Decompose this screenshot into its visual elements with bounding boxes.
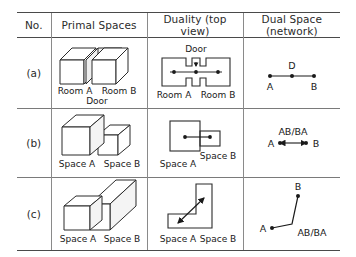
network-a-label-a: A: [266, 81, 273, 92]
duality-diagram-b: Space A Space B: [148, 109, 244, 177]
network-diagram-c: B A AB/BA: [244, 178, 341, 251]
table-row: (c) Space A Space B: [17, 178, 340, 251]
primal-diagram-c: Space A Space B: [52, 178, 148, 251]
duality-a-label-room-a: Room A: [156, 90, 191, 100]
door-arrow-icon: [193, 63, 198, 68]
network-a-node-d: [290, 74, 294, 78]
duality-c-label-space-b: Space B: [199, 234, 235, 244]
row-label-b: (b): [17, 109, 51, 178]
cell-primal-a: Room A Room B Door: [51, 38, 147, 109]
duality-b-label-space-b: Space B: [199, 151, 235, 161]
cell-network-c: B A AB/BA: [243, 178, 340, 251]
duality-a-label-room-b: Room B: [200, 90, 235, 100]
cell-duality-a: Door Room A Room B: [147, 38, 243, 109]
duality-a-node-room-b: [216, 70, 220, 74]
network-a-label-d: D: [288, 60, 295, 71]
table-row: (b) Space A Space B: [17, 109, 340, 178]
table-row: (a) Room A Room B Door: [17, 38, 340, 109]
primal-b-label-space-b: Space B: [103, 159, 139, 169]
duality-diagram-c: Space A Space B: [148, 178, 244, 251]
duality-c-label-space-a: Space A: [159, 234, 196, 244]
duality-b-node-space-b: [208, 135, 212, 139]
network-a-label-b: B: [310, 81, 317, 92]
row-label-a: (a): [17, 38, 51, 109]
network-c-node-b: [296, 194, 300, 198]
network-c-label-edge: AB/BA: [297, 227, 327, 238]
network-c-label-b: B: [294, 181, 301, 192]
network-a-node-b: [312, 74, 316, 78]
cell-primal-b: Space A Space B: [51, 109, 147, 178]
network-diagram-a: D A B: [244, 38, 341, 109]
network-c-node-a: [270, 226, 274, 230]
table-header-row: No. Primal Spaces Duality (top view) Dua…: [17, 13, 340, 38]
network-b-node-a: [278, 141, 282, 145]
network-a-node-a: [268, 74, 272, 78]
network-b-node-b: [304, 141, 308, 145]
cell-primal-c: Space A Space B: [51, 178, 147, 251]
figure-table-root: No. Primal Spaces Duality (top view) Dua…: [0, 0, 356, 257]
primal-c-label-space-b: Space B: [103, 234, 139, 244]
network-diagram-b: AB/BA A B: [244, 109, 341, 177]
primal-diagram-a: Room A Room B Door: [52, 38, 148, 109]
duality-diagram-a: Door Room A Room B: [148, 38, 244, 109]
primal-a-label-room-b: Room B: [101, 86, 136, 96]
comparison-table: No. Primal Spaces Duality (top view) Dua…: [17, 12, 340, 251]
primal-a-label-door: Door: [86, 96, 108, 106]
network-b-label-b: B: [312, 138, 319, 149]
network-c-edge: [272, 196, 298, 228]
cell-network-b: AB/BA A B: [243, 109, 340, 178]
header-duality-top-view: Duality (top view): [147, 13, 243, 38]
duality-c-arrow: [178, 198, 204, 223]
row-label-c: (c): [17, 178, 51, 251]
network-b-label-edge: AB/BA: [278, 126, 308, 137]
header-dual-space-network: Dual Space (network): [243, 13, 340, 38]
header-no: No.: [17, 13, 51, 38]
primal-a-label-room-a: Room A: [57, 86, 92, 96]
duality-a-node-door: [194, 70, 198, 74]
cell-network-a: D A B: [243, 38, 340, 109]
primal-c-label-space-a: Space A: [59, 234, 96, 244]
cell-duality-c: Space A Space B: [147, 178, 243, 251]
cell-duality-b: Space A Space B: [147, 109, 243, 178]
primal-b-label-space-a: Space A: [58, 159, 95, 169]
primal-diagram-b: Space A Space B: [52, 109, 148, 177]
network-b-label-a: A: [267, 138, 274, 149]
duality-a-label-door: Door: [185, 44, 207, 54]
duality-b-label-space-a: Space A: [159, 159, 196, 169]
duality-a-node-room-a: [172, 70, 176, 74]
network-c-label-a: A: [259, 223, 266, 234]
header-primal-spaces: Primal Spaces: [51, 13, 147, 38]
duality-b-node-space-a: [183, 135, 187, 139]
